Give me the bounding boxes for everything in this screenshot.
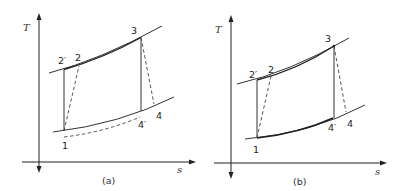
dashed-lower-curve-a <box>64 117 140 137</box>
panel-a: T s 2′ 2 3 4 4′ 1 (a) <box>22 13 196 186</box>
actual-expansion-b <box>334 46 346 112</box>
t-axis-arrow-down-icon <box>37 166 42 173</box>
point-label-2prime-a: 2′ <box>58 55 66 66</box>
point-label-2prime-b: 2′ <box>249 69 257 80</box>
panel-b: T s 2′ 2 3 4 4′ 1 (b) <box>214 15 387 187</box>
s-axis-label-b: s <box>375 166 380 177</box>
t-axis-label-a: T <box>23 22 31 33</box>
t-axis-arrow-up-icon <box>229 15 234 22</box>
panel-caption-a: (a) <box>102 175 115 186</box>
t-axis-arrow-down-icon <box>229 172 234 179</box>
t-axis-label-b: T <box>215 24 223 35</box>
point-label-2-a: 2 <box>75 52 81 63</box>
point-label-2-b: 2 <box>268 64 274 75</box>
actual-expansion-a <box>141 38 154 105</box>
actual-compression-b <box>257 76 271 138</box>
point-label-1-a: 1 <box>62 140 68 151</box>
point-label-4prime-b: 4′ <box>328 122 336 133</box>
s-axis-arrow-right-icon <box>380 161 387 166</box>
point-label-3-b: 3 <box>325 33 331 44</box>
state-point-3-dot-b <box>333 45 335 47</box>
actual-compression-a <box>64 66 79 131</box>
t-axis-arrow-up-icon <box>37 13 42 20</box>
panel-caption-b: (b) <box>293 176 306 187</box>
ts-diagram-figure: T s 2′ 2 3 4 4′ 1 (a) <box>0 0 406 191</box>
point-label-3-a: 3 <box>131 25 137 36</box>
point-label-4-b: 4 <box>347 118 353 129</box>
point-label-4-a: 4 <box>156 110 162 121</box>
s-axis-arrow-right-icon <box>189 160 196 165</box>
s-axis-label-a: s <box>177 164 182 175</box>
point-label-4prime-a: 4′ <box>138 119 146 130</box>
point-label-1-b: 1 <box>253 144 259 155</box>
heat-rejection-path-b <box>257 118 333 138</box>
